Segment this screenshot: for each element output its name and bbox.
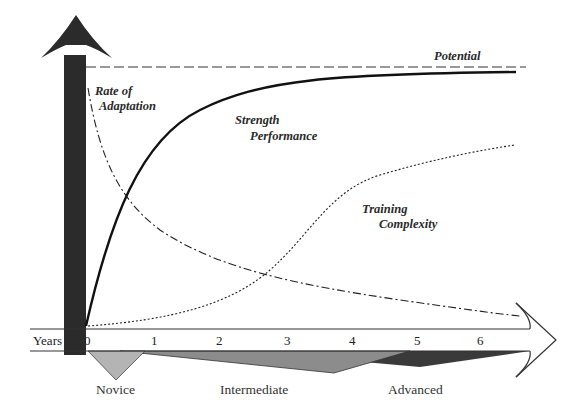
tick-5: 5	[414, 333, 421, 348]
training-label: Training	[362, 202, 407, 216]
intermediate-stage-shape	[120, 351, 410, 373]
tick-6: 6	[477, 333, 484, 348]
rate-of-label: Rate of	[94, 84, 134, 98]
tick-1: 1	[151, 333, 158, 348]
adaptation-label: Adaptation	[98, 99, 156, 113]
tick-4: 4	[349, 333, 356, 348]
tick-0: 0	[84, 333, 91, 348]
tick-2: 2	[216, 333, 223, 348]
training-progression-diagram: Potential Rate of Adaptation Strength Pe…	[0, 0, 583, 417]
novice-stage-shape	[88, 351, 145, 380]
intermediate-label: Intermediate	[220, 382, 288, 397]
potential-label: Potential	[434, 49, 481, 63]
tick-3: 3	[284, 333, 291, 348]
novice-label: Novice	[96, 382, 135, 397]
rate-of-adaptation-curve	[88, 88, 520, 316]
y-axis-arrow-icon	[41, 15, 112, 355]
performance-label: Performance	[250, 129, 318, 143]
complexity-label: Complexity	[379, 217, 438, 231]
advanced-label: Advanced	[388, 382, 443, 397]
x-axis-label: Years	[33, 333, 62, 348]
training-complexity-curve	[88, 145, 515, 326]
strength-label: Strength	[235, 113, 280, 127]
